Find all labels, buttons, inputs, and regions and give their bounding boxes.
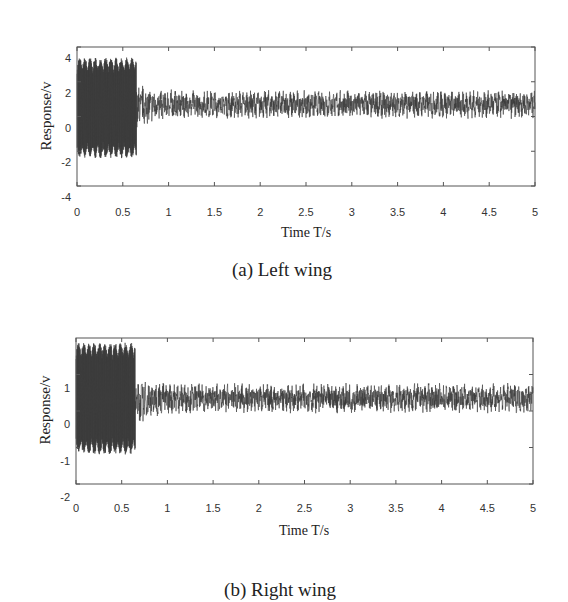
y-axis-label: Response/v [37, 375, 54, 444]
figure-caption: (b) Right wing [224, 579, 336, 601]
x-tick-label: 0.5 [114, 502, 129, 514]
x-tick-label: 1 [164, 502, 170, 514]
x-tick-label: 3.5 [388, 502, 403, 514]
y-tick-label: 0 [64, 418, 70, 430]
y-tick-label: -2 [60, 491, 70, 503]
x-tick-label: 5 [530, 502, 536, 514]
figure-right-wing: 00.511.522.533.544.55 10-1-2 Time T/s Re… [0, 0, 568, 602]
x-tick-label: 4.5 [480, 502, 495, 514]
x-tick-label: 2.5 [297, 502, 312, 514]
signal-line [76, 343, 533, 455]
x-axis-label: Time T/s [279, 523, 329, 539]
x-tick-label: 3 [347, 502, 353, 514]
y-tick-label: 1 [64, 382, 70, 394]
x-tick-label: 1.5 [205, 502, 220, 514]
x-tick-label: 4 [439, 502, 445, 514]
x-tick-label: 0 [73, 502, 79, 514]
x-tick-label: 2 [256, 502, 262, 514]
y-tick-label: -1 [60, 455, 70, 467]
